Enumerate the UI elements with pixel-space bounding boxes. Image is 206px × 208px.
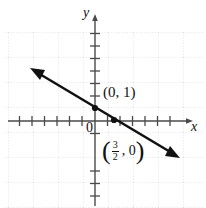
open-paren: ( xyxy=(102,140,111,162)
point-x-intercept xyxy=(111,117,117,123)
fraction-denominator: 2 xyxy=(112,152,119,163)
grid-background xyxy=(3,32,203,208)
x-intercept-suffix: , 0 xyxy=(122,144,136,158)
graph-canvas xyxy=(0,0,206,208)
origin-label: 0 xyxy=(86,121,93,135)
x-axis-label: x xyxy=(191,120,197,134)
coordinate-plane-figure: y x 0 (0, 1) ( 3 2 , 0 ) xyxy=(0,0,206,208)
fraction-numerator: 3 xyxy=(112,140,119,151)
fraction-three-halves: 3 2 xyxy=(112,140,119,162)
point-y-intercept xyxy=(92,105,98,111)
close-paren: ) xyxy=(136,140,145,162)
x-intercept-label: ( 3 2 , 0 ) xyxy=(102,140,144,162)
y-intercept-label: (0, 1) xyxy=(103,85,136,100)
y-axis-label: y xyxy=(83,6,89,20)
